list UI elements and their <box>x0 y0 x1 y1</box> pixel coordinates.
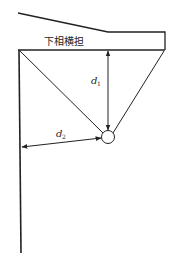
d2-subscript: 2 <box>62 133 66 140</box>
tower-body-line <box>19 50 21 253</box>
insulator-string-right <box>113 51 164 133</box>
conductor-icon <box>102 131 115 144</box>
insulator-string-left <box>20 51 103 133</box>
crossarm-label: 下相横担 <box>44 35 84 47</box>
d1-subscript: 1 <box>97 80 101 87</box>
crossarm-clearance-diagram: 下相横担 d 1 d 2 <box>0 0 180 274</box>
upper-slanted-member <box>18 13 165 50</box>
